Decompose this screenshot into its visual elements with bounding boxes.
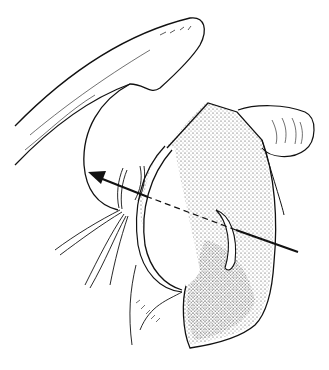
nerve-branches bbox=[55, 166, 145, 288]
glenoid-capsule bbox=[136, 102, 284, 348]
anatomical-illustration bbox=[0, 0, 329, 370]
